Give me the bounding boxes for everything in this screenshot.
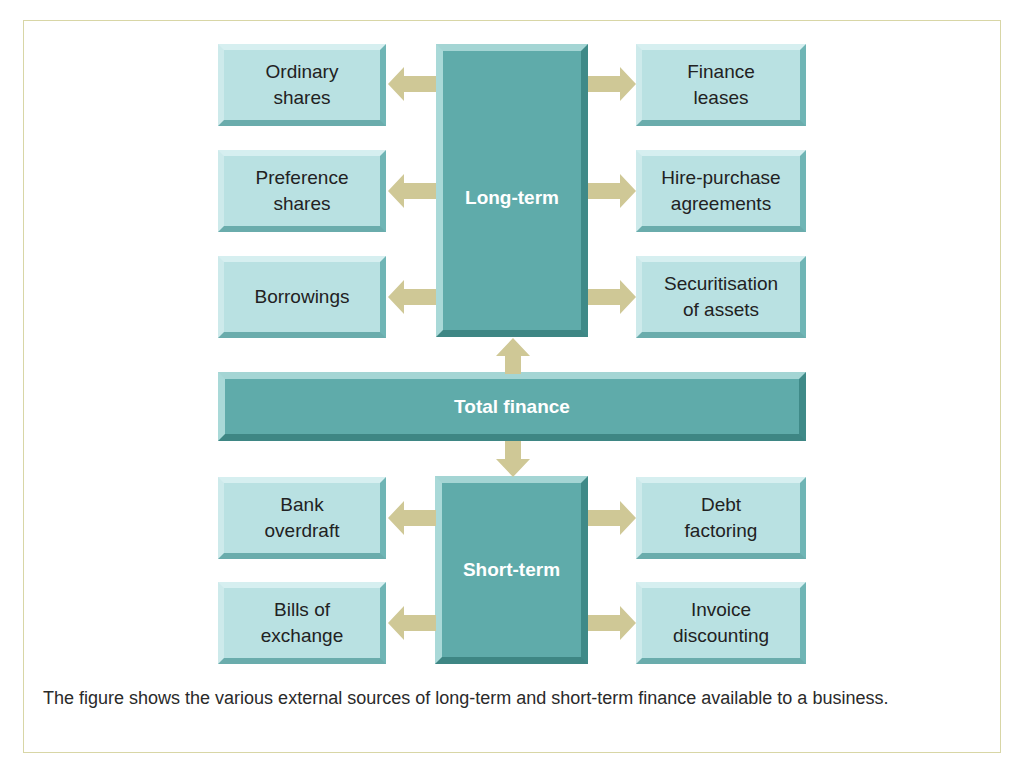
borrowings-box: Borrowings xyxy=(218,256,386,338)
arrow-down-icon xyxy=(496,441,530,477)
finance-leases-box: Finance leases xyxy=(636,44,806,126)
hire-purchase-box: Hire-purchase agreements xyxy=(636,150,806,232)
bank-overdraft-label: Bank overdraft xyxy=(265,492,340,544)
figure-caption: The figure shows the various external so… xyxy=(43,685,993,712)
hire-purchase-label: Hire-purchase agreements xyxy=(661,165,780,217)
long-term-label: Long-term xyxy=(465,187,559,209)
preference-shares-label: Preference shares xyxy=(256,165,349,217)
arrow-right-icon xyxy=(588,501,636,535)
long-term-box: Long-term xyxy=(436,44,588,337)
preference-shares-box: Preference shares xyxy=(218,150,386,232)
arrow-left-icon xyxy=(388,501,436,535)
short-term-box: Short-term xyxy=(435,476,588,664)
cut-off-text-line xyxy=(0,772,1020,776)
borrowings-label: Borrowings xyxy=(254,284,349,310)
bills-of-exchange-label: Bills of exchange xyxy=(261,597,343,649)
finance-leases-label: Finance leases xyxy=(687,59,755,111)
securitisation-box: Securitisation of assets xyxy=(636,256,806,338)
ordinary-shares-box: Ordinary shares xyxy=(218,44,386,126)
bank-overdraft-box: Bank overdraft xyxy=(218,477,386,559)
invoice-discounting-label: Invoice discounting xyxy=(673,597,769,649)
ordinary-shares-label: Ordinary shares xyxy=(266,59,339,111)
debt-factoring-box: Debt factoring xyxy=(636,477,806,559)
securitisation-label: Securitisation of assets xyxy=(664,271,778,323)
debt-factoring-label: Debt factoring xyxy=(685,492,758,544)
arrow-right-icon xyxy=(588,606,636,640)
arrow-left-icon xyxy=(388,606,436,640)
bills-of-exchange-box: Bills of exchange xyxy=(218,582,386,664)
arrow-left-icon xyxy=(388,174,436,208)
arrow-left-icon xyxy=(388,67,436,101)
arrow-right-icon xyxy=(588,280,636,314)
arrow-right-icon xyxy=(588,67,636,101)
total-finance-label: Total finance xyxy=(454,396,570,418)
total-finance-bar: Total finance xyxy=(218,372,806,441)
invoice-discounting-box: Invoice discounting xyxy=(636,582,806,664)
arrow-right-icon xyxy=(588,174,636,208)
arrow-up-icon xyxy=(496,338,530,374)
arrow-left-icon xyxy=(388,280,436,314)
short-term-label: Short-term xyxy=(463,559,560,581)
